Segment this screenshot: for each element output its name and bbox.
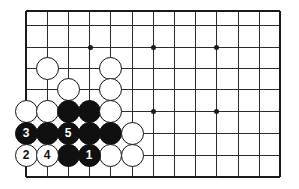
board-line-vertical (259, 11, 260, 177)
star-point (151, 45, 156, 50)
stone-black-move-5[interactable]: 5 (57, 122, 80, 145)
stone-white[interactable] (36, 100, 59, 123)
stone-white[interactable] (99, 78, 122, 101)
stone-white[interactable] (99, 100, 122, 123)
stone-black-move-3[interactable]: 3 (15, 122, 38, 145)
stone-black[interactable] (36, 122, 59, 145)
stone-white[interactable] (57, 78, 80, 101)
board-line-vertical (238, 11, 239, 177)
star-point (214, 109, 219, 114)
stone-white-move-4[interactable]: 4 (36, 144, 59, 167)
stone-move-number: 1 (86, 149, 93, 161)
star-point (151, 109, 156, 114)
stone-white[interactable] (15, 100, 38, 123)
stone-white[interactable] (99, 144, 122, 167)
stone-white[interactable] (99, 57, 122, 80)
board-line-vertical (153, 11, 154, 177)
stone-black[interactable] (78, 122, 101, 145)
board-line-vertical (174, 11, 175, 177)
board-line-vertical (216, 11, 217, 177)
star-point (214, 45, 219, 50)
stone-black[interactable] (78, 100, 101, 123)
board-line-vertical (279, 11, 281, 177)
stone-black[interactable] (57, 100, 80, 123)
stone-move-number: 2 (23, 149, 30, 161)
go-diagram: 35241 (0, 0, 299, 189)
stone-white[interactable] (121, 122, 144, 145)
stone-black[interactable] (99, 122, 122, 145)
stone-move-number: 3 (23, 127, 30, 139)
stone-white-move-2[interactable]: 2 (15, 144, 38, 167)
stone-move-number: 4 (44, 149, 51, 161)
stone-white[interactable] (36, 57, 59, 80)
star-point (88, 45, 93, 50)
stone-move-number: 5 (65, 127, 72, 139)
go-board: 35241 (0, 0, 299, 189)
stone-black-move-1[interactable]: 1 (78, 144, 101, 167)
stone-black[interactable] (57, 144, 80, 167)
board-line-vertical (195, 11, 196, 177)
stone-white[interactable] (121, 144, 144, 167)
